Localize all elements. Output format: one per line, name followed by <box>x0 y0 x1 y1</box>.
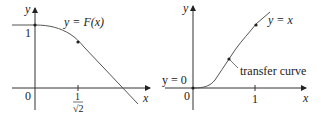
transfer-label-leader <box>230 60 238 68</box>
left-zero-label: 0 <box>25 89 31 103</box>
right-y0-label: y = 0 <box>162 73 187 87</box>
left-y-label: y <box>24 2 31 16</box>
left-one-label: 1 <box>25 26 31 40</box>
right-plot: y x 0 1 y = 0 y = x transfer curve <box>162 1 309 110</box>
left-tick-numerator: 1 <box>75 91 80 102</box>
right-one-label: 1 <box>252 92 258 106</box>
left-plot: y x 1 0 1 √2 y = F(x) <box>12 2 150 114</box>
left-point-intercept <box>33 23 36 26</box>
transfer-curve-label: transfer curve <box>240 64 306 78</box>
right-point-origin <box>191 86 194 89</box>
left-tick-denominator: √2 <box>73 103 84 114</box>
right-yx-label: y = x <box>267 13 293 27</box>
right-y-label: y <box>182 1 189 15</box>
right-zero-label: 0 <box>184 89 190 103</box>
left-point-inflection <box>76 40 79 43</box>
right-x-label: x <box>302 91 309 105</box>
left-curve-label: y = F(x) <box>63 15 104 29</box>
figure: y x 1 0 1 √2 y = F(x) y x 0 1 y = 0 y = … <box>0 0 321 124</box>
right-point-yx <box>254 23 257 26</box>
left-x-label: x <box>142 91 149 105</box>
